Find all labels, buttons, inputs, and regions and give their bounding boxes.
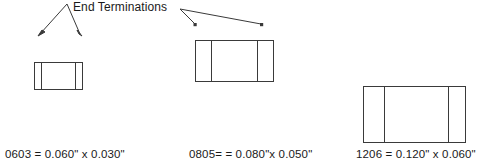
component-0805-body bbox=[196, 41, 274, 82]
component-1206 bbox=[364, 87, 466, 143]
caption-1206: 1206 = 0.120" x 0.060" bbox=[356, 147, 476, 161]
component-1206-body bbox=[364, 87, 466, 143]
pointer-0603-right-arrowhead bbox=[77, 30, 82, 36]
pointer-0805-right-arrowhead bbox=[260, 23, 263, 26]
pointer-0603-left-line bbox=[40, 4, 67, 34]
pointer-0603-left-arrowhead bbox=[38, 30, 45, 36]
chip-package-diagram bbox=[0, 0, 477, 165]
caption-0805: 0805= = 0.080"x 0.050" bbox=[189, 147, 312, 161]
component-0805 bbox=[196, 41, 274, 82]
caption-0603: 0603 = 0.060" x 0.030" bbox=[5, 147, 125, 161]
component-0603 bbox=[35, 63, 83, 90]
pointer-0805-left-arrowhead bbox=[194, 23, 197, 26]
end-terminations-callout-label: End Terminations bbox=[73, 0, 167, 14]
diagram-page: End Terminations 0603 = 0.060" x 0.030" … bbox=[0, 0, 477, 165]
